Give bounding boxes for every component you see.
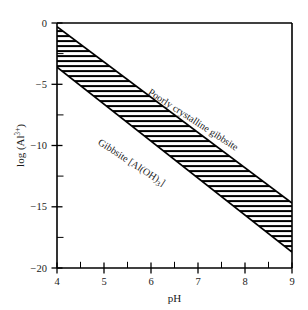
x-tick-label-9: 9 — [289, 276, 294, 287]
y-tick-label-minus5: −5 — [36, 79, 47, 90]
figure-container: 0 −5 −10 −15 −20 4 5 6 7 8 9 pH log (Al3… — [0, 0, 308, 310]
y-tick-label-0: 0 — [42, 18, 47, 29]
hatched-region — [57, 27, 292, 252]
x-tick-label-8: 8 — [242, 276, 247, 287]
y-axis-title-superscript: 3+ — [14, 128, 22, 136]
y-tick-labels: 0 −5 −10 −15 −20 — [31, 18, 47, 274]
y-tick-label-minus15: −15 — [31, 201, 47, 212]
y-axis-title-tail: ) — [14, 124, 27, 128]
lower-curve-annotation-base: Gibbsite [Al(OH) — [96, 136, 162, 185]
upper-boundary-poorly-crystalline-gibbsite — [57, 27, 292, 203]
x-axis-title: pH — [168, 292, 182, 304]
x-tick-label-7: 7 — [195, 276, 200, 287]
x-axis-minor-ticks — [81, 262, 269, 268]
x-tick-label-4: 4 — [54, 276, 60, 287]
x-tick-label-6: 6 — [148, 276, 153, 287]
stability-band — [57, 27, 292, 252]
y-tick-label-minus20: −20 — [31, 263, 47, 274]
svg-text:log (Al3+): log (Al3+) — [14, 124, 27, 167]
y-axis-title-base: log (Al — [14, 135, 27, 166]
solubility-diagram: 0 −5 −10 −15 −20 4 5 6 7 8 9 pH log (Al3… — [0, 0, 308, 310]
lower-boundary-gibbsite — [57, 67, 292, 252]
y-axis-title: log (Al3+) — [14, 124, 27, 167]
x-tick-label-5: 5 — [101, 276, 106, 287]
x-tick-labels: 4 5 6 7 8 9 — [54, 276, 294, 287]
lower-curve-annotation-tail: ] — [159, 177, 168, 188]
y-tick-label-minus10: −10 — [31, 140, 47, 151]
